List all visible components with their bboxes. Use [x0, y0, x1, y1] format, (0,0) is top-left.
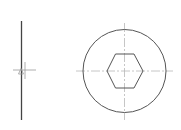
technical-drawing	[0, 0, 181, 130]
top-view	[76, 23, 173, 120]
side-view	[13, 21, 36, 120]
